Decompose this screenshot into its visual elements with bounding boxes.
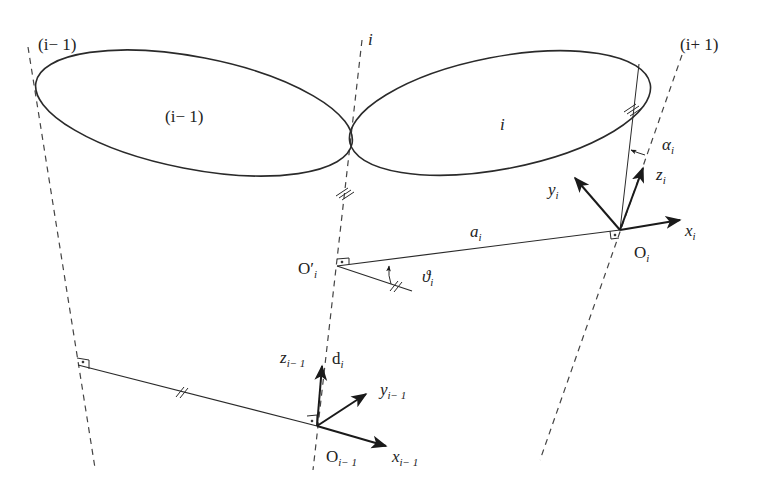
common-normal-a-i-minus-1: [78, 365, 317, 426]
y-i-minus-1-axis-arrow: [317, 394, 366, 426]
axis-label-i: i: [368, 30, 373, 49]
link-i-shape: [339, 29, 661, 197]
link-label-i-minus-1: (i− 1): [165, 107, 203, 126]
label-a-i: ai: [470, 222, 482, 243]
theta-angle-arc: [389, 266, 391, 284]
link-label-i: i: [500, 115, 505, 134]
x-i-minus-1-axis-arrow: [317, 426, 386, 446]
label-x-i: xi: [684, 221, 696, 242]
label-origin-i-minus-1: Oi− 1: [326, 447, 357, 468]
label-alpha-i: αi: [662, 135, 674, 156]
label-z-i: zi: [655, 165, 666, 186]
label-z-i-minus-1: zi− 1: [279, 348, 305, 369]
label-origin-i: Oi: [634, 243, 649, 264]
parallel-marks: [176, 104, 642, 398]
axis-label-i-minus-1: (i− 1): [38, 35, 76, 54]
x-i-minus-1-parallel: [337, 266, 412, 291]
label-theta-i: ϑi: [422, 267, 433, 288]
dh-diagram: (i− 1) i (i+ 1) (i− 1) i xi yi zi Oi O′i…: [0, 0, 757, 498]
joint-axis-i-minus-1: [28, 47, 95, 468]
alpha-angle-arc: [631, 150, 645, 155]
joint-axis-i-plus-1: [540, 55, 682, 460]
label-y-i: yi: [546, 180, 559, 201]
joint-axis-i: [313, 40, 362, 470]
label-x-i-minus-1: xi− 1: [391, 447, 418, 468]
y-i-axis-arrow: [575, 178, 620, 230]
label-d-i: di: [332, 349, 344, 370]
label-y-i-minus-1: yi− 1: [378, 380, 406, 401]
right-angle-markers: [77, 231, 619, 426]
label-origin-prime-i: O′i: [298, 259, 317, 280]
x-i-axis-arrow: [620, 220, 680, 230]
axis-label-i-plus-1: (i+ 1): [680, 35, 718, 54]
